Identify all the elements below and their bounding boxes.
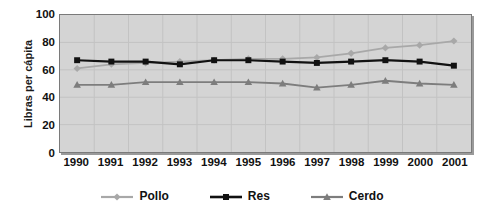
data-point-marker bbox=[108, 59, 114, 65]
chart-series-layer bbox=[60, 15, 471, 152]
legend-label: Cerdo bbox=[349, 190, 384, 203]
y-axis-tick-label: 100 bbox=[22, 9, 55, 19]
data-point-marker bbox=[450, 37, 457, 44]
data-point-marker bbox=[382, 57, 388, 63]
plot-area bbox=[59, 14, 472, 153]
y-axis-tick-label: 0 bbox=[22, 148, 55, 158]
diamond-marker-icon bbox=[100, 191, 134, 203]
y-axis-tick-label: 40 bbox=[22, 92, 55, 102]
data-point-marker bbox=[177, 61, 183, 67]
series-cerdo bbox=[73, 77, 457, 91]
data-point-marker bbox=[74, 65, 81, 72]
data-point-marker bbox=[245, 57, 251, 63]
x-axis-tick-labels: 1990199119921993199419951996199719981999… bbox=[59, 156, 472, 172]
y-axis-tick-label: 60 bbox=[22, 65, 55, 75]
data-point-marker bbox=[348, 50, 355, 57]
triangle-marker-icon bbox=[310, 191, 344, 203]
chart-legend: PolloResCerdo bbox=[0, 190, 484, 203]
legend-entry-pollo[interactable]: Pollo bbox=[100, 190, 168, 203]
data-point-marker bbox=[313, 54, 320, 61]
y-axis-tick-labels: 100806040200 bbox=[22, 0, 55, 217]
legend-label: Pollo bbox=[139, 190, 168, 203]
data-point-marker bbox=[114, 193, 121, 200]
legend-entry-res[interactable]: Res bbox=[209, 190, 270, 203]
data-point-marker bbox=[211, 57, 217, 63]
data-point-marker bbox=[223, 194, 229, 200]
series-line bbox=[77, 41, 454, 68]
data-point-marker bbox=[280, 59, 286, 65]
square-marker-icon bbox=[209, 191, 243, 203]
series-line bbox=[77, 81, 454, 88]
line-chart: Libras per cápita 100806040200 199019911… bbox=[0, 0, 484, 217]
x-axis-tick-label: 2001 bbox=[432, 156, 478, 169]
data-point-marker bbox=[451, 63, 457, 69]
legend-entry-cerdo[interactable]: Cerdo bbox=[310, 190, 384, 203]
y-axis-tick-label: 80 bbox=[22, 37, 55, 47]
series-pollo bbox=[74, 37, 458, 71]
data-point-marker bbox=[417, 59, 423, 65]
data-point-marker bbox=[416, 42, 423, 49]
data-point-marker bbox=[74, 57, 80, 63]
data-point-marker bbox=[314, 60, 320, 66]
data-point-marker bbox=[143, 59, 149, 65]
y-axis-tick-label: 20 bbox=[22, 120, 55, 130]
data-point-marker bbox=[382, 44, 389, 51]
data-point-marker bbox=[348, 59, 354, 65]
legend-label: Res bbox=[248, 190, 270, 203]
